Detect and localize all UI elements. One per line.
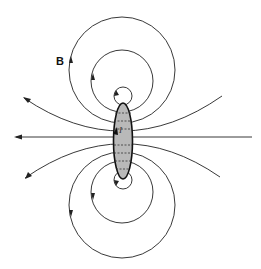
- arrow-arc-bottom-icon: [25, 172, 32, 179]
- magnetic-field-diagram: [0, 0, 261, 269]
- current-loop: [113, 103, 133, 179]
- arrow-axis-icon: [14, 135, 22, 140]
- field-label-b: B: [56, 55, 64, 67]
- current-label-i: I: [119, 125, 122, 135]
